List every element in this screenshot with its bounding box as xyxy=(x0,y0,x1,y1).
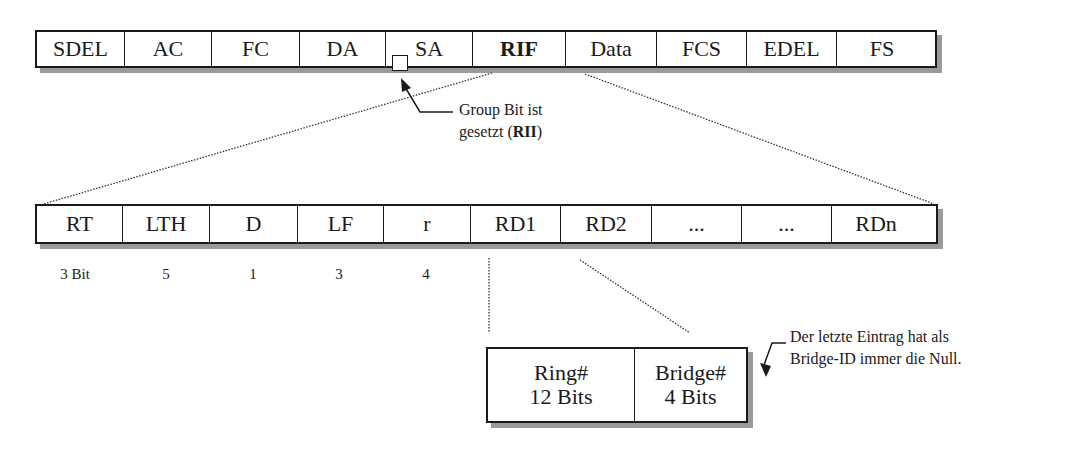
rif-field-rd2: RD2 xyxy=(561,206,652,242)
last-entry-note: Der letzte Eintrag hat als Bridge-ID imm… xyxy=(790,326,962,370)
bridge-number-label: Bridge# xyxy=(655,361,726,385)
rif-field-lth: LTH xyxy=(123,206,210,242)
bit-size-label: 5 xyxy=(162,266,170,283)
rif-structure: RTLTHDLFrRD1RD2......RDn xyxy=(35,204,938,244)
rif-field-ellipsis-8: ... xyxy=(742,206,832,242)
bit-size-label: 3 xyxy=(335,266,343,283)
field-rif: RIF xyxy=(473,32,566,66)
group-bit-note-line1: Group Bit ist xyxy=(459,99,543,121)
rif-field-r: r xyxy=(384,206,471,242)
rif-field-rd1: RD1 xyxy=(471,206,561,242)
field-sdel: SDEL xyxy=(37,32,125,66)
bit-size-label: 1 xyxy=(249,266,257,283)
token-ring-frame: SDELACFCDASARIFDataFCSEDELFS xyxy=(35,30,937,68)
group-bit-arrow-icon xyxy=(405,87,453,112)
field-fc: FC xyxy=(212,32,300,66)
field-data: Data xyxy=(566,32,657,66)
rd-expand-right-line xyxy=(580,260,690,333)
ring-number-bits: 12 Bits xyxy=(530,385,593,409)
last-entry-note-line1: Der letzte Eintrag hat als xyxy=(790,326,962,348)
bridge-number-bits: 4 Bits xyxy=(665,385,717,409)
field-fcs: FCS xyxy=(657,32,747,66)
group-bit-note-line2: gesetzt (RII) xyxy=(459,121,543,143)
ring-number-field: Ring# 12 Bits xyxy=(488,349,635,421)
route-descriptor: Ring# 12 Bits Bridge# 4 Bits xyxy=(486,347,748,423)
rif-field-rt: RT xyxy=(37,206,123,242)
rif-field-lf: LF xyxy=(298,206,384,242)
last-entry-note-line2: Bridge-ID immer die Null. xyxy=(790,348,962,370)
rif-field-d: D xyxy=(210,206,298,242)
rif-field-rdn: RDn xyxy=(832,206,920,242)
bit-size-label: 4 xyxy=(422,266,430,283)
ring-number-label: Ring# xyxy=(534,361,588,385)
field-edel: EDEL xyxy=(747,32,837,66)
bit-size-label: 3 Bit xyxy=(60,266,90,283)
field-da: DA xyxy=(300,32,386,66)
field-ac: AC xyxy=(125,32,212,66)
bridge-number-field: Bridge# 4 Bits xyxy=(635,349,746,421)
rif-bit-sizes: 3 Bit5134 xyxy=(35,266,475,286)
group-bit-marker xyxy=(392,55,408,71)
field-fs: FS xyxy=(837,32,927,66)
rif-field-ellipsis-7: ... xyxy=(652,206,742,242)
rif-expand-left-line xyxy=(40,73,492,205)
group-bit-note: Group Bit ist gesetzt (RII) xyxy=(459,99,543,143)
rif-expand-right-line xyxy=(585,74,934,204)
last-entry-arrow-icon xyxy=(764,343,786,365)
